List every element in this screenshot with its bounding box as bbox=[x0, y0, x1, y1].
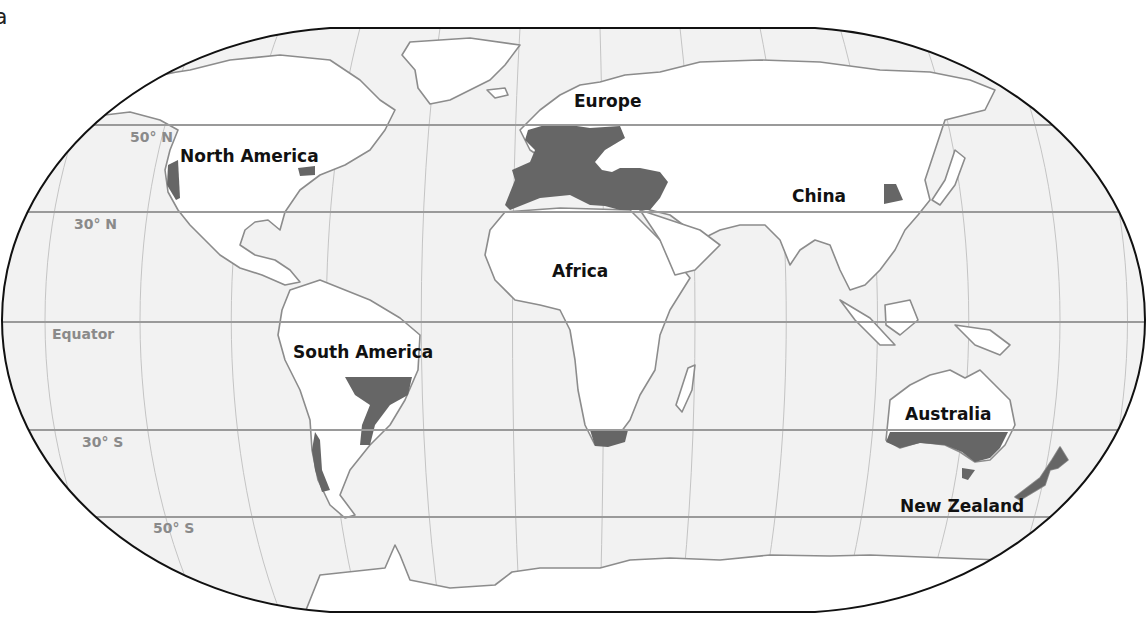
label-new-zealand: New Zealand bbox=[900, 496, 1024, 516]
lat-label-30s: 30° S bbox=[82, 434, 123, 450]
label-south-america: South America bbox=[293, 342, 433, 362]
world-map: 50° N 30° N Equator 30° S 50° S North Am… bbox=[0, 0, 1147, 625]
lat-label-30n: 30° N bbox=[74, 216, 117, 232]
lat-label-50s: 50° S bbox=[153, 520, 194, 536]
label-china: China bbox=[792, 186, 846, 206]
label-africa: Africa bbox=[552, 261, 608, 281]
label-australia: Australia bbox=[905, 404, 992, 424]
lat-label-50n: 50° N bbox=[130, 129, 173, 145]
lat-label-equator: Equator bbox=[52, 326, 114, 342]
label-europe: Europe bbox=[574, 91, 641, 111]
label-north-america: North America bbox=[180, 146, 319, 166]
